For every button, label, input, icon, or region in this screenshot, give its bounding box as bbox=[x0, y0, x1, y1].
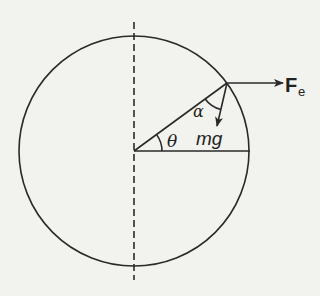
label-electric-force-subscript: e bbox=[298, 84, 305, 99]
theta-arc bbox=[157, 135, 162, 151]
diagram-canvas: θ α mg F e bbox=[0, 0, 320, 296]
label-theta: θ bbox=[167, 131, 177, 151]
alpha-arc bbox=[205, 99, 221, 110]
label-weight: mg bbox=[196, 128, 223, 149]
label-alpha: α bbox=[193, 102, 204, 121]
diagram-svg: θ α mg F e bbox=[0, 0, 320, 296]
label-electric-force: F bbox=[285, 74, 297, 96]
